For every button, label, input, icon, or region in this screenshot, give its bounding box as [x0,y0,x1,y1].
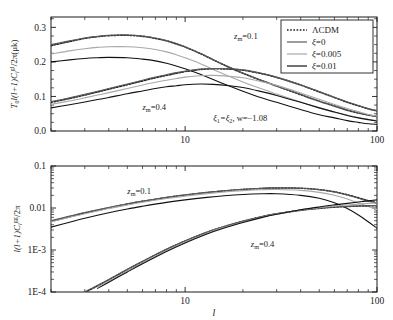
figure-container: 101000.00.10.20.3zm=0.1zm=0.4ξ1=ξ2, w=−1… [0,0,393,320]
annotation-z-m=0.4: zm=0.4 [250,239,275,250]
curve--cdm-z-m=0.4 [85,206,377,293]
legend-label-2: ξ=0.005 [312,49,342,59]
legend: ΛCDMξ=0ξ=0.005ξ=0.01 [281,20,373,73]
curve--=0.005-z-m=0.4 [98,203,377,287]
x-ticklabel: 100 [370,296,385,306]
y-axis-label-top: T0l(l+1)Clgl/2π(μk) [8,39,20,108]
y-ticklabel: 0.1 [34,92,46,102]
y-ticklabel: 0.3 [34,23,46,33]
y-ticklabel: 1E-4 [28,287,47,297]
x-ticklabel: 100 [370,135,385,145]
annotation-z-m=0.1: zm=0.1 [233,31,258,42]
annotation-z-m=0.4: zm=0.4 [142,102,167,113]
curve--=0.01-z-m=0.4 [98,200,377,288]
x-ticklabel: 10 [180,135,190,145]
x-ticklabel: 10 [180,296,190,306]
y-ticklabel: 1E-3 [28,245,47,255]
legend-label-0: ΛCDM [312,25,339,35]
annotation-z-m=0.1: zm=0.1 [126,186,151,197]
x-axis-label: l [213,307,216,318]
x-ticks-bottom [51,166,377,292]
y-ticks-bottom [51,166,377,292]
annotation--1=-2-w=-1.08: ξ1=ξ2, w=−1.08 [213,113,267,124]
plot-frame-bottom [51,166,377,292]
figure-svg: 101000.00.10.20.3zm=0.1zm=0.4ξ1=ξ2, w=−1… [0,0,393,320]
curve--=0-z-m=0.4 [85,206,377,292]
legend-label-1: ξ=0 [312,37,326,47]
y-ticklabel: 0.0 [34,126,46,136]
panel-bottom: 101000.10.011E-31E-4zm=0.1zm=0.4 [28,161,385,306]
y-ticklabel: 0.1 [34,161,46,171]
y-ticklabel: 0.01 [29,203,46,213]
legend-label-3: ξ=0.01 [312,61,337,71]
curves-bottom [51,188,377,293]
y-axis-label-bottom: l(l+1)Clgg/2π [11,205,23,253]
y-ticklabel: 0.2 [34,57,46,67]
